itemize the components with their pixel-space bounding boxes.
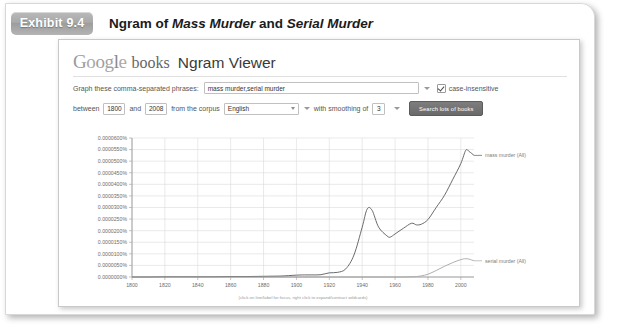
y-tick-label: 0.0000350%: [98, 193, 128, 199]
smoothing-input[interactable]: 3: [372, 103, 385, 115]
y-tick-label: 0.0000000%: [98, 274, 128, 280]
phrases-input[interactable]: mass murder,serial murder: [204, 82, 419, 94]
exhibit-title-term-1: Mass Murder: [172, 16, 255, 31]
y-tick-label: 0.0000400%: [98, 181, 128, 187]
y-tick-label: 0.0000100%: [98, 251, 128, 257]
y-tick-label: 0.0000550%: [98, 146, 128, 152]
corpus-select-value: English: [228, 105, 249, 112]
exhibit-title-term-2: Serial Murder: [287, 16, 373, 31]
ngram-chart[interactable]: 0.0000600%0.0000550%0.0000500%0.0000450%…: [59, 128, 580, 307]
between-label: between: [73, 105, 99, 112]
y-tick-label: 0.0000450%: [98, 170, 128, 176]
x-tick-label: 1980: [422, 282, 434, 288]
x-tick-label: 1800: [126, 282, 138, 288]
chevron-down-icon[interactable]: [304, 107, 310, 110]
y-tick-label: 0.0000150%: [98, 239, 128, 245]
phrases-row: Graph these comma-separated phrases: mas…: [73, 82, 499, 94]
x-tick-label: 1820: [159, 282, 171, 288]
x-tick-label: 1940: [356, 282, 368, 288]
x-tick-label: 1960: [389, 282, 401, 288]
range-row: between 1800 and 2008 from the corpus En…: [73, 101, 483, 116]
exhibit-tag: Exhibit 9.4: [11, 12, 93, 35]
y-tick-label: 0.0000500%: [98, 158, 128, 164]
series-label[interactable]: serial murder (All): [485, 258, 526, 264]
chevron-down-icon[interactable]: [424, 87, 430, 90]
x-tick-label: 1900: [291, 282, 303, 288]
y-tick-label: 0.0000300%: [98, 204, 128, 210]
ngram-viewer-screenshot: Google books Ngram Viewer Graph these co…: [58, 39, 580, 307]
x-tick-label: 1860: [225, 282, 237, 288]
y-tick-label: 0.0000050%: [98, 262, 128, 268]
exhibit-title-prefix: Ngram of: [109, 16, 172, 31]
x-tick-label: 1920: [324, 282, 336, 288]
y-tick-label: 0.0000200%: [98, 228, 128, 234]
phrases-label: Graph these comma-separated phrases:: [73, 85, 199, 92]
x-tick-label: 1840: [192, 282, 204, 288]
screenshot-root: Exhibit 9.4 Ngram of Mass Murder and Ser…: [0, 0, 618, 325]
exhibit-card: Exhibit 9.4 Ngram of Mass Murder and Ser…: [5, 3, 595, 315]
x-tick-label: 2000: [455, 282, 467, 288]
google-wordmark: Google: [73, 51, 127, 73]
checkbox-checked-icon[interactable]: [437, 84, 446, 93]
exhibit-header: Exhibit 9.4 Ngram of Mass Murder and Ser…: [6, 4, 594, 42]
case-insensitive-label: case-insensitive: [449, 85, 499, 92]
smoothing-label: with smoothing of: [314, 105, 368, 112]
ngram-viewer-wordmark: Ngram Viewer: [178, 54, 276, 72]
chevron-down-icon: [291, 107, 295, 110]
search-button[interactable]: Search lots of books: [409, 101, 483, 116]
case-insensitive-toggle[interactable]: case-insensitive: [437, 84, 499, 93]
exhibit-title-conjunction: and: [255, 16, 287, 31]
ngram-chart-svg[interactable]: 0.0000600%0.0000550%0.0000500%0.0000450%…: [59, 128, 580, 307]
books-wordmark: books: [132, 54, 170, 72]
y-tick-label: 0.0000600%: [98, 135, 128, 141]
corpus-label: from the corpus: [171, 105, 220, 112]
x-tick-label: 1880: [258, 282, 270, 288]
series-label[interactable]: mass murder (All): [485, 152, 526, 158]
header-divider: [73, 76, 567, 77]
chevron-down-icon[interactable]: [394, 107, 400, 110]
page-title: Ngram of Mass Murder and Serial Murder: [109, 16, 373, 31]
end-year-input[interactable]: 2008: [145, 103, 167, 115]
and-label: and: [129, 105, 141, 112]
y-tick-label: 0.0000250%: [98, 216, 128, 222]
chart-caption: (click on line/label for focus, right cl…: [239, 295, 369, 300]
ngram-logo[interactable]: Google books Ngram Viewer: [73, 51, 276, 73]
start-year-input[interactable]: 1800: [103, 103, 125, 115]
corpus-select[interactable]: English: [224, 103, 299, 115]
